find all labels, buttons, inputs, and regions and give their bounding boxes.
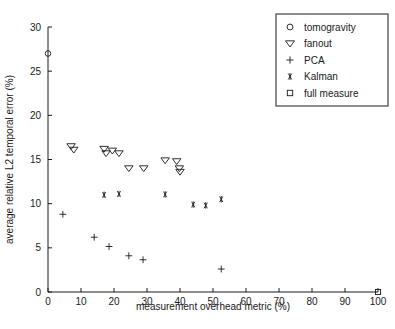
data-point-Kalman	[204, 202, 207, 208]
x-axis-label: measurement overhead metric (%)	[136, 301, 290, 312]
data-point-fanout	[125, 166, 134, 172]
y-tick-label: 20	[30, 110, 42, 121]
y-tick-label: 30	[30, 22, 42, 33]
x-tick-label: 100	[370, 296, 387, 307]
data-point-Kalman	[220, 196, 223, 202]
x-tick-label: 20	[108, 296, 120, 307]
legend-label-full-measure: full measure	[304, 88, 359, 99]
y-tick-label: 25	[30, 66, 42, 77]
plot-canvas: 0510152025300102030405060708090100measur…	[0, 0, 395, 329]
y-tick-label: 15	[30, 154, 42, 165]
data-point-PCA	[125, 252, 132, 259]
data-point-fanout	[69, 147, 78, 153]
data-point-Kalman	[164, 191, 167, 197]
data-point-Kalman	[102, 192, 105, 198]
data-point-fanout	[139, 166, 148, 172]
x-tick-label: 90	[339, 296, 351, 307]
data-point-PCA	[91, 234, 98, 241]
legend-label-Kalman: Kalman	[304, 71, 338, 82]
legend-label-fanout: fanout	[304, 38, 332, 49]
data-point-fanout	[161, 158, 170, 164]
x-tick-label: 10	[75, 296, 87, 307]
x-tick-label: 0	[45, 296, 51, 307]
data-point-fanout	[102, 151, 111, 157]
data-point-PCA	[218, 266, 225, 273]
data-point-PCA	[140, 256, 147, 263]
y-axis-label: average relative L2 temporal error (%)	[4, 75, 15, 244]
scatter-plot-figure: 0510152025300102030405060708090100measur…	[0, 0, 395, 329]
data-point-fanout	[172, 159, 181, 165]
x-tick-label: 80	[306, 296, 318, 307]
y-tick-label: 10	[30, 198, 42, 209]
data-point-Kalman	[117, 191, 120, 197]
y-tick-label: 5	[35, 242, 41, 253]
data-point-PCA	[59, 211, 66, 218]
data-point-fanout	[100, 146, 109, 152]
data-point-Kalman	[192, 201, 195, 207]
data-point-fanout	[67, 144, 76, 150]
data-point-PCA	[106, 243, 113, 250]
data-point-fanout	[115, 151, 124, 157]
legend-label-tomogravity: tomogravity	[304, 22, 356, 33]
legend-label-PCA: PCA	[304, 55, 325, 66]
y-tick-label: 0	[35, 287, 41, 298]
